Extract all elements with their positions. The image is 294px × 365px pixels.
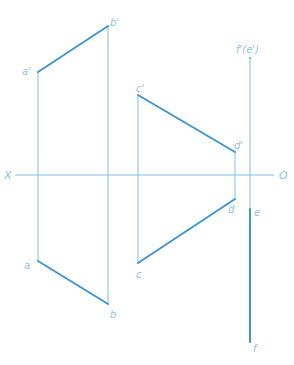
axis-label-x: X: [3, 169, 12, 182]
label-d: d: [228, 204, 235, 215]
projection-diagram: X O a' b' c' d' f'(e') a b c d e f: [0, 0, 294, 365]
label-c: c: [136, 269, 142, 280]
segment-a-prime-b-prime: [38, 26, 108, 72]
segment-c-prime-d-prime: [138, 95, 235, 152]
point-fe-prime-marker: [249, 57, 252, 60]
segment-cd: [138, 199, 235, 263]
axis-label-o: O: [279, 169, 288, 182]
segment-ab: [38, 261, 108, 304]
label-d-prime: d': [234, 140, 243, 151]
label-f-prime-e-prime: f'(e'): [236, 44, 259, 55]
label-a-prime: a': [22, 66, 31, 77]
label-f: f: [253, 343, 258, 354]
label-c-prime: c': [136, 83, 144, 94]
label-e: e: [254, 207, 260, 218]
label-a: a: [24, 260, 30, 271]
label-b: b: [110, 309, 116, 320]
label-b-prime: b': [110, 17, 119, 28]
